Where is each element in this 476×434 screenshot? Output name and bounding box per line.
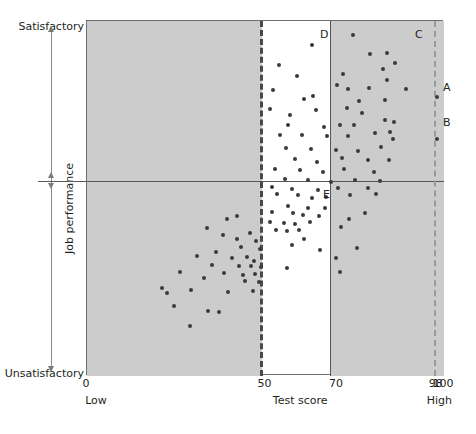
shaded-region-below-50-upper [87,21,262,182]
scatter-plot-area: DCE [86,20,443,375]
data-point [251,289,255,293]
data-point [284,146,288,150]
shaded-region-below-50-lower [87,182,262,376]
data-point [274,228,278,232]
data-point [270,185,274,189]
data-point [277,63,281,67]
data-point [271,88,275,92]
data-point [374,192,378,196]
x-axis-tick-0: 0 [83,377,90,390]
data-point [366,186,370,190]
data-point [360,111,364,115]
data-point [306,206,310,210]
data-point [302,97,306,101]
x-axis-tick-100: 100 [433,377,454,390]
data-point [239,245,243,249]
y-axis-title: Job performance [63,139,76,279]
data-point [346,134,350,138]
x-axis-tick-70: 70 [329,377,343,390]
y-axis-arrow-line [51,31,52,367]
quadrant-label-c: C [415,29,423,40]
data-point [285,229,289,233]
y-axis-bottom-label: Unsatisfactory [0,367,84,380]
data-point [323,206,327,210]
x-axis-high-label: High [427,394,452,407]
data-point [301,213,305,217]
data-point [282,221,286,225]
data-point [195,254,199,258]
data-point [318,248,322,252]
data-point [322,125,326,129]
data-point [268,107,272,111]
callout-label-b: B [443,117,451,128]
data-point [270,210,274,214]
data-point [268,220,272,224]
data-point [345,106,349,110]
y-axis-up-arrow-icon [48,26,54,32]
data-point [298,168,302,172]
data-point [235,237,239,241]
data-point [248,231,252,235]
data-point [258,247,262,251]
data-point [309,147,313,151]
data-point [321,170,325,174]
data-point [308,220,312,224]
data-point [160,286,164,290]
data-point [363,211,367,215]
data-point [257,280,261,284]
x-axis-low-label: Low [85,394,107,407]
data-point [245,255,249,259]
data-point [285,266,289,270]
data-point [352,123,356,127]
quadrant-label-e: E [323,189,330,200]
data-point [243,279,247,283]
data-point [178,270,182,274]
data-point [288,113,292,117]
data-point [295,74,299,78]
data-point [315,160,319,164]
data-point [334,148,338,152]
y-axis-mid-tick [38,181,86,182]
data-point [290,243,294,247]
data-point [383,118,387,122]
x-axis-tick-50: 50 [258,377,272,390]
x-axis-title: Test score [273,394,328,407]
data-point [293,222,297,226]
data-point [391,137,395,141]
data-point [237,264,241,268]
data-point [286,123,290,127]
y-axis-down-arrow-icon [48,366,54,372]
data-point [385,78,389,82]
data-point [226,290,230,294]
data-point [293,157,297,161]
data-point [372,170,376,174]
data-point [341,72,345,76]
data-point [355,246,359,250]
data-point [302,237,306,241]
data-point [300,133,304,137]
data-point [296,193,300,197]
data-point [311,94,315,98]
data-point [335,83,339,87]
data-point [314,108,318,112]
data-point [291,211,295,215]
data-point [336,186,340,190]
data-point [348,193,352,197]
data-point [297,228,301,232]
shaded-region-above-70-lower [331,182,444,376]
callout-label-a: A [443,82,451,93]
data-point [334,256,338,260]
data-point [283,177,287,181]
cutoff-line-98 [434,21,436,376]
data-point [385,51,389,55]
data-point [373,131,377,135]
data-point [310,43,314,47]
data-point [383,98,387,102]
data-point [325,134,329,138]
data-point [381,67,385,71]
data-point [273,167,277,171]
data-point [286,204,290,208]
cutoff-line-70 [330,21,331,376]
data-point [339,225,343,229]
data-point [210,263,214,267]
